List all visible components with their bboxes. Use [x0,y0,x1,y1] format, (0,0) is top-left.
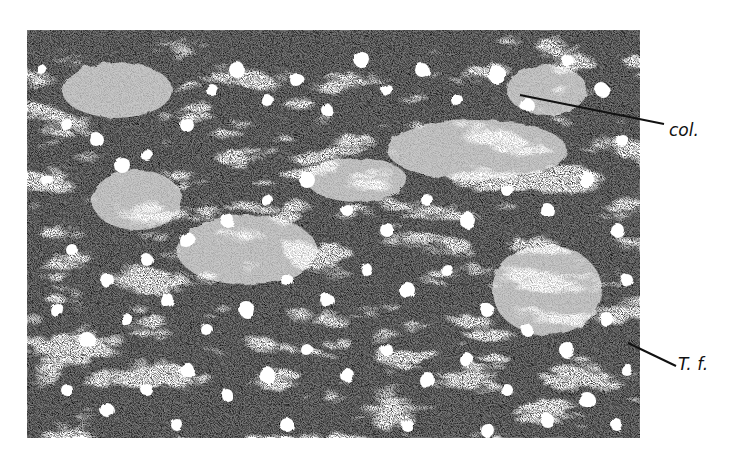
label-collagen: col. [669,120,699,140]
label-tissue-fibers: T. f. [678,354,708,374]
label-leader-lines [0,0,736,458]
